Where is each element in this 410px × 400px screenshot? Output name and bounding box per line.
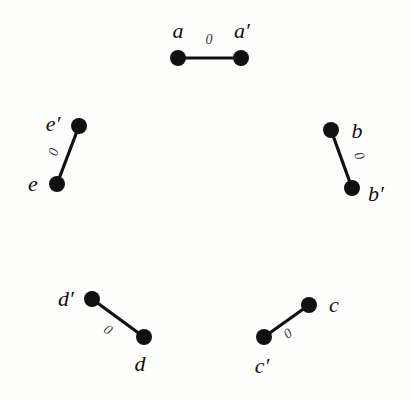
vertex-label-d: d xyxy=(135,353,146,375)
vertex-dot xyxy=(323,122,339,138)
vertex-dot xyxy=(170,50,186,66)
vertex-dot xyxy=(256,329,272,345)
edge-line xyxy=(331,130,352,188)
vertex-dot xyxy=(344,180,360,196)
vertex-dot xyxy=(71,118,87,134)
diagram-canvas xyxy=(0,0,410,400)
vertex-dot xyxy=(136,329,152,345)
vertex-dot xyxy=(301,297,317,313)
vertex-dots-group xyxy=(49,50,360,345)
vertex-label-b: b xyxy=(352,120,363,142)
vertex-label-c: c xyxy=(329,294,339,316)
figure-container: aa′0bb′0cc′0d′d0e′e0 xyxy=(0,0,410,400)
vertex-dot xyxy=(49,176,65,192)
vertex-label-c-prime: c′ xyxy=(255,355,270,377)
vertex-dot xyxy=(84,291,100,307)
vertex-label-b-prime: b′ xyxy=(368,183,384,205)
vertex-label-e: e xyxy=(28,173,38,195)
edge-lines-group xyxy=(57,58,352,337)
vertex-label-a-prime: a′ xyxy=(234,20,250,42)
vertex-dot xyxy=(233,50,249,66)
vertex-label-e-prime: e′ xyxy=(46,113,61,135)
vertex-label-d-prime: d′ xyxy=(58,288,74,310)
edge-label-edge-a: 0 xyxy=(206,33,213,47)
vertex-label-a: a xyxy=(173,20,184,42)
edge-line xyxy=(92,299,144,337)
